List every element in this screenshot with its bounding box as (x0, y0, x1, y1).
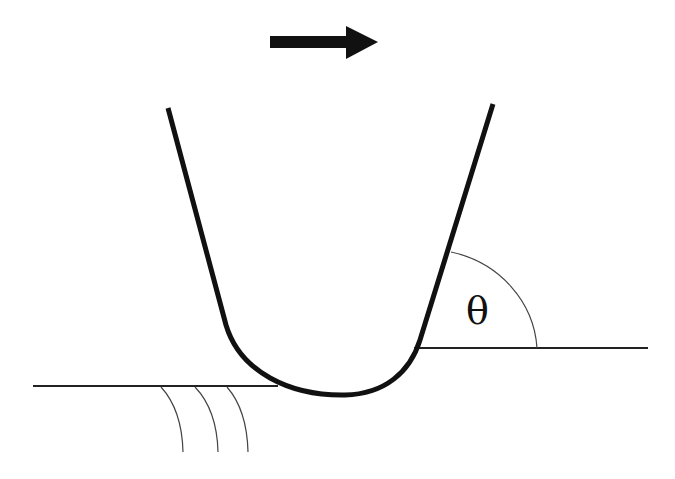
diagram-canvas: θ (0, 0, 675, 479)
contact-angle-arc (451, 252, 537, 348)
angle-theta-label: θ (466, 292, 489, 330)
subsurface-lines (161, 387, 248, 452)
motion-arrow-icon (270, 26, 378, 59)
u-shaped-tool (168, 104, 493, 395)
diagram-svg (0, 0, 675, 479)
